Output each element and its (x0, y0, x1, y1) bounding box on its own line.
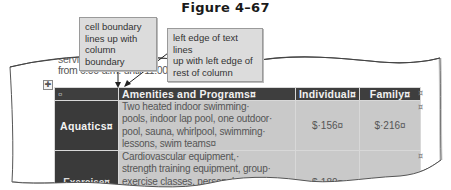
callout-line: column boundary (85, 44, 151, 67)
callout-line: left edge of text lines (173, 32, 257, 55)
callout-line: rest of column (173, 67, 257, 79)
callout-line: cell boundary (85, 21, 151, 33)
callout-line: lines up with (85, 33, 151, 45)
callout-left-edge: left edge of text lines up with left edg… (167, 28, 263, 82)
callout-line: up with left edge of (173, 55, 257, 67)
callout-cell-boundary: cell boundary lines up with column bound… (79, 17, 157, 71)
